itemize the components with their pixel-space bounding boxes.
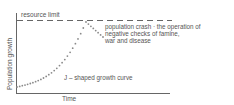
crash-curve	[88, 23, 104, 38]
j-curve-dot	[37, 80, 39, 82]
crash-curve-dot	[97, 32, 99, 34]
j-curve-dot	[19, 86, 21, 88]
j-curve-dot	[67, 55, 69, 57]
crash-curve-dot	[92, 28, 94, 30]
crash-curve-dot	[100, 34, 102, 36]
crash-label-line-3: war and disease	[104, 37, 151, 44]
j-curve-dot	[24, 84, 26, 86]
curve-label: J – shaped growth curve	[64, 74, 133, 82]
j-curve-dot	[59, 65, 61, 67]
y-axis-label: Population growth	[6, 38, 14, 90]
j-curve-dot	[29, 83, 31, 85]
j-curve-dot	[56, 67, 58, 69]
j-curve-dot	[21, 85, 23, 87]
j-curve-dot	[27, 83, 29, 85]
x-axis-label: Time	[62, 95, 77, 102]
j-curve-dot	[35, 81, 37, 83]
j-curve-dot	[72, 47, 74, 49]
resource-limit-label: resource limit	[21, 11, 60, 18]
j-curve-dot	[82, 27, 84, 29]
j-curve-dot	[32, 82, 34, 84]
j-curve-dot	[40, 79, 42, 81]
j-curve-dot	[45, 76, 47, 78]
j-curve-dot	[75, 43, 77, 45]
crash-curve-dot	[90, 25, 92, 27]
j-curve-dot	[61, 62, 63, 64]
population-growth-diagram: resource limit population crash · the op…	[0, 0, 234, 105]
crash-curve-dot	[95, 30, 97, 32]
j-curve-dot	[51, 72, 53, 74]
crash-curve-dot	[88, 23, 90, 25]
j-curve-dot	[80, 33, 82, 35]
j-curve-dot	[43, 77, 45, 79]
crash-curve-dot	[102, 36, 104, 38]
j-curve-dot	[48, 74, 50, 76]
j-curve-dot	[16, 86, 18, 88]
j-curve-dot	[53, 70, 55, 72]
j-curve-dot	[64, 59, 66, 61]
j-curve-dot	[69, 51, 71, 53]
j-curve-dot	[77, 38, 79, 40]
j-curve-dot	[85, 21, 87, 23]
